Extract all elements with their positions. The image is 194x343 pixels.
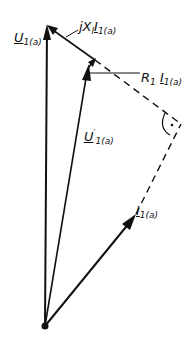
label-jxi: jXlI1(a) bbox=[79, 20, 116, 33]
label-u1a-sub: 1(a) bbox=[24, 37, 42, 47]
label-i1a-sub: 1(a) bbox=[140, 210, 158, 220]
label-uprime-sub: 1(a) bbox=[96, 136, 114, 146]
label-u1a: U1(a) bbox=[14, 31, 42, 44]
phasor-diagram: U1(a) jXlI1(a) R1 I1(a) U′1(a) I1(a) bbox=[0, 0, 194, 343]
right-angle-marker bbox=[162, 113, 170, 135]
label-uprime: U′1(a) bbox=[84, 130, 114, 143]
label-r1i: R1 I1(a) bbox=[141, 71, 182, 84]
label-jxi-prefix: jX bbox=[79, 19, 92, 34]
label-r1i-prefix: R bbox=[141, 70, 150, 85]
uprime-phasor bbox=[45, 72, 87, 326]
label-uprime-main: U bbox=[84, 129, 94, 144]
right-angle-dot bbox=[171, 124, 174, 127]
jxi-leader bbox=[66, 30, 78, 37]
label-u1a-main: U bbox=[14, 30, 24, 45]
label-jxi-sub2: 1(a) bbox=[98, 26, 116, 36]
dashed-extension-upper bbox=[95, 60, 181, 124]
label-jxi-sub1: l bbox=[92, 26, 95, 36]
i1a-phasor bbox=[45, 222, 130, 326]
phasor-diagram-graphic bbox=[0, 0, 194, 343]
origin-dot bbox=[42, 323, 49, 330]
label-i1a: I1(a) bbox=[136, 204, 158, 217]
label-r1i-sub2: 1(a) bbox=[164, 77, 182, 87]
label-r1i-sub1: 1 bbox=[150, 77, 156, 87]
i1a-arrowhead bbox=[122, 214, 136, 230]
dashed-extension-lower bbox=[136, 124, 181, 214]
u1a-phasor bbox=[45, 28, 47, 326]
